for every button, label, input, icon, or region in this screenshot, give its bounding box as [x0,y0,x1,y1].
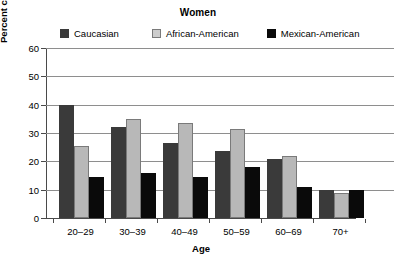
legend-item-african-american: African-American [152,28,239,39]
bar-group [163,48,208,218]
bar [126,119,141,218]
x-axis-tick [313,219,314,223]
x-axis-tick [53,219,54,223]
y-axis-tick-label: 40 [14,101,39,111]
bar [178,123,193,218]
bar-group [215,48,260,218]
x-axis-tick-label: 50–59 [212,226,262,237]
y-axis-tick-label: 30 [14,129,39,139]
x-axis-ticks [47,219,395,224]
y-axis-tick-label: 10 [14,186,39,196]
legend-label-african-american: African-American [166,28,239,39]
y-axis-tick [41,190,46,191]
y-axis-tick-label: 0 [14,214,39,224]
bar [74,146,89,218]
y-axis-title: Percent current smokers [0,0,9,62]
bar-group [267,48,312,218]
bar-group [59,48,104,218]
bar [111,127,126,218]
chart-title: Women [0,7,396,18]
bar [215,151,230,218]
legend-label-caucasian: Caucasian [74,28,119,39]
legend-swatch-caucasian [60,29,69,38]
bar [163,143,178,218]
x-axis-tick [261,219,262,223]
x-axis-tick [157,219,158,223]
bar [334,193,349,219]
legend-label-mexican-american: Mexican-American [281,28,360,39]
x-axis-tick [365,219,366,223]
bar [230,129,245,218]
bar [245,167,260,218]
x-axis-title: Age [46,243,356,254]
y-axis-tick-label: 20 [14,157,39,167]
legend-swatch-mexican-american [267,29,276,38]
legend-swatch-african-american [152,29,161,38]
bar [282,156,297,218]
bar-group [319,48,364,218]
bar [59,105,74,218]
x-axis-tick-label: 30–39 [108,226,158,237]
bars-layer [47,48,394,218]
bar [193,177,208,218]
bar [89,177,104,218]
y-axis-tick-label: 60 [14,44,39,54]
plot-area: 0102030405060 [46,48,394,219]
bar-chart: Women Caucasian African-American Mexican… [0,0,396,276]
x-axis-tick-label: 40–49 [160,226,210,237]
x-axis-tick-label: 70+ [316,226,366,237]
y-axis-tick [41,76,46,77]
y-axis-tick [41,48,46,49]
bar-group [111,48,156,218]
y-axis-tick [41,105,46,106]
x-axis-tick [105,219,106,223]
bar [141,173,156,218]
y-axis-tick-label: 50 [14,72,39,82]
bar [267,159,282,219]
x-axis-tick-label: 20–29 [56,226,106,237]
legend-item-mexican-american: Mexican-American [267,28,360,39]
legend-item-caucasian: Caucasian [60,28,119,39]
x-axis-tick-label: 60–69 [264,226,314,237]
bar [319,190,334,218]
x-axis-labels: 20–2930–3940–4950–5960–6970+ [46,226,394,239]
y-axis-tick [41,133,46,134]
y-axis-tick [41,218,46,219]
x-axis-tick [209,219,210,223]
y-axis-tick [41,161,46,162]
bar [349,190,364,218]
chart-legend: Caucasian African-American Mexican-Ameri… [46,26,394,40]
bar [297,187,312,218]
